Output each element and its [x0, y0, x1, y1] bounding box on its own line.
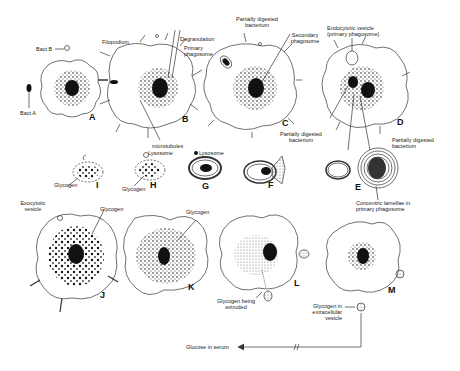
label-endocytotic-vesicle: Endocytotic vesicle (primary phagosome) [327, 25, 387, 37]
label-partially-digested-c: Partially digested bacterium [232, 16, 282, 28]
panel-label-a: A [89, 112, 96, 122]
panel-label-j: J [100, 290, 105, 300]
panel-label-c: C [282, 118, 289, 128]
panel-label-b: B [182, 114, 189, 124]
panel-label-g: G [202, 181, 209, 191]
label-bact-b: Bact B [36, 46, 52, 52]
label-partially-digested-e: Partially digested bacterium [392, 137, 442, 149]
label-lysosome-g: Lysosome [199, 150, 224, 156]
panel-label-h: H [150, 180, 157, 190]
label-concentric-lamellae: Concentric lamellae in primary phagosome [356, 200, 416, 212]
label-lysosome-h: Lysosome [148, 150, 173, 156]
label-exocytotic-vesicle: Exocytotic vesicle [18, 200, 48, 212]
cell-a [27, 46, 101, 118]
cell-d [322, 36, 410, 150]
phagosome-e [358, 148, 398, 200]
panel-label-f: F [268, 180, 274, 190]
label-bact-a: Bact A [20, 110, 36, 116]
label-partially-digested-d: Partially digested bacterium [276, 131, 326, 143]
label-glycogen-j: Glycogen [100, 206, 123, 212]
panel-label-k: K [188, 282, 195, 292]
label-degranulation: Degranulation [180, 36, 214, 42]
label-glycogen-k: Glycogen [186, 209, 209, 215]
label-secondary-phagosome: Secondary phagosome [286, 32, 324, 44]
label-glucose-serum: Glucose in serum [186, 344, 229, 350]
cell-l [219, 215, 309, 301]
label-glycogen-h: Glycogen [122, 186, 145, 192]
vesicle-e-empty [326, 161, 350, 179]
cell-m [326, 222, 404, 293]
panel-label-m: M [388, 285, 396, 295]
extracellular-vesicle [345, 303, 365, 311]
label-glycogen-extruded: Glycogen being extruded [212, 298, 260, 310]
label-microtubules: microtubules [152, 143, 183, 149]
cell-k [123, 215, 208, 294]
label-glycogen-i: Glycogen [54, 182, 77, 188]
panel-label-d: D [397, 117, 404, 127]
label-primary-phagosome: Primary phagosome [184, 45, 214, 57]
phagosome-f [244, 156, 285, 184]
panel-label-l: L [294, 278, 300, 288]
panel-label-i: I [96, 180, 99, 190]
label-glycogen-extracellular: Glycogen in extracellular vesicle [296, 303, 342, 321]
diagram-phagocytosis-glycogen: A B C D E F G H I J K L M Bact A Bact B … [0, 0, 460, 371]
panel-label-e: E [355, 182, 361, 192]
label-filopodium: Filopodium [102, 39, 129, 45]
